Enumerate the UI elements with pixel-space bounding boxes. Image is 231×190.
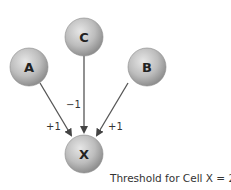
threshold-caption: Threshold for Cell X = 2 [110, 172, 231, 184]
node-c: C [65, 18, 103, 56]
neural-diagram: C A B X +1 −1 +1 [0, 0, 231, 190]
node-b-label: B [142, 60, 152, 75]
weight-c-x: −1 [66, 99, 81, 110]
node-a: A [10, 48, 48, 86]
weight-b-x: +1 [108, 121, 123, 132]
weight-a-x: +1 [46, 121, 61, 132]
node-b: B [128, 48, 166, 86]
node-c-label: C [79, 30, 89, 45]
node-a-label: A [24, 60, 34, 75]
node-x: X [65, 135, 103, 173]
node-x-label: X [79, 147, 89, 162]
